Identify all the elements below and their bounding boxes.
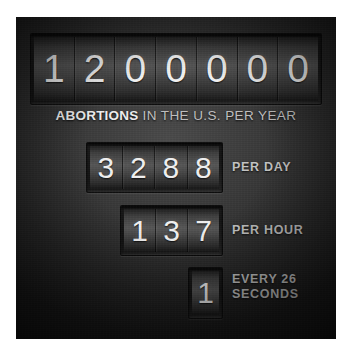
odometer-digit: 3 — [155, 209, 187, 252]
odometer-digit: 0 — [114, 37, 155, 101]
odometer-per-year: 1 2 0 0 0 0 0 — [30, 33, 322, 105]
label-per-day: PER DAY — [232, 160, 291, 175]
panel-content: 1 2 0 0 0 0 0 ABORTIONS IN THE U.S. PER … — [16, 17, 336, 339]
odometer-digit: 7 — [187, 209, 219, 252]
infographic-panel: 1 2 0 0 0 0 0 ABORTIONS IN THE U.S. PER … — [16, 17, 336, 339]
label-every-seconds-line1: EVERY 26 — [232, 272, 297, 286]
odometer-digit: 2 — [122, 146, 155, 189]
odometer-digit: 0 — [155, 37, 196, 101]
odometer-per-day: 3 2 8 8 — [86, 142, 223, 193]
odometer-digit: 3 — [90, 146, 122, 189]
odometer-digit: 8 — [187, 146, 220, 189]
odometer-digit: 0 — [277, 37, 318, 101]
headline-subtitle: ABORTIONS IN THE U.S. PER YEAR — [30, 107, 322, 125]
odometer-digit: 8 — [154, 146, 187, 189]
odometer-digit: 0 — [196, 37, 237, 101]
odometer-every-seconds: 1 — [188, 267, 223, 319]
subtitle-remainder: IN THE U.S. PER YEAR — [138, 108, 296, 123]
subtitle-emphasis: ABORTIONS — [56, 108, 139, 123]
odometer-digit: 1 — [192, 271, 219, 315]
odometer-digit: 1 — [124, 209, 155, 252]
label-per-hour: PER HOUR — [232, 223, 304, 238]
odometer-per-hour: 1 3 7 — [120, 205, 223, 256]
odometer-digit: 1 — [34, 37, 74, 101]
odometer-digit: 2 — [74, 37, 115, 101]
label-every-seconds-line2: SECONDS — [232, 287, 299, 302]
label-every-seconds: EVERY 26 SECONDS — [232, 272, 299, 302]
image-mat: 1 2 0 0 0 0 0 ABORTIONS IN THE U.S. PER … — [0, 0, 348, 362]
odometer-digit: 0 — [237, 37, 278, 101]
